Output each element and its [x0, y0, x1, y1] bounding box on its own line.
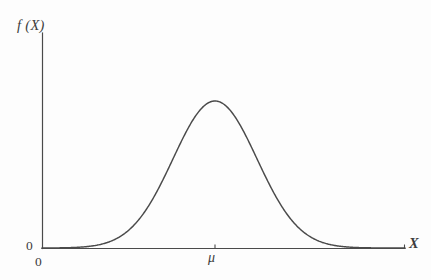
plot-canvas	[0, 0, 431, 280]
x-axis-label: X	[409, 236, 419, 251]
y-axis-origin-label: 0	[26, 239, 33, 253]
y-axis-label: f (X)	[17, 18, 45, 33]
mean-tick-label: μ	[208, 251, 215, 265]
normal-density-curve	[42, 101, 405, 248]
x-axis-origin-label: 0	[35, 255, 42, 269]
normal-distribution-figure: f (X) X μ 0 0	[0, 0, 431, 280]
